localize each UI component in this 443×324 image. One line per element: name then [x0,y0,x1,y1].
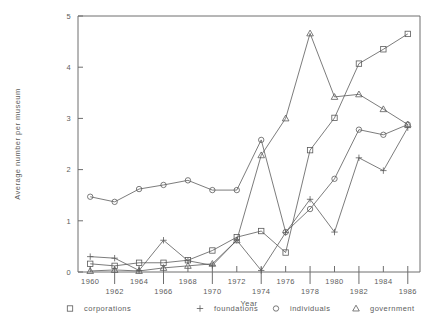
y-tick-label-1: 1 [66,217,71,226]
x-tick-label-1986: 1986 [399,287,417,296]
x-tick-label-1976: 1976 [276,277,294,286]
legend-label-government: government [370,304,415,313]
chart-labels: 0123451960196219641966196819701972197419… [13,12,417,308]
legend-marker-triangle [353,305,360,311]
x-tick-label-1968: 1968 [179,277,197,286]
legend-item-individuals: individuals [273,304,330,313]
datapoint-foundations-1978 [307,196,313,202]
legend-label-individuals: individuals [290,304,331,313]
y-tick-label-3: 3 [66,114,71,123]
x-tick-label-1962: 1962 [105,287,123,296]
chart-series [87,30,411,274]
datapoint-foundations-1984 [380,167,386,173]
y-tick-label-4: 4 [66,63,71,72]
legend-marker-plus [197,305,203,311]
x-tick-label-1984: 1984 [374,277,392,286]
chart-axes [78,16,420,284]
series-line-government [90,33,408,271]
x-tick-label-1980: 1980 [325,277,343,286]
legend-marker-square [67,306,72,311]
series-government [87,30,411,273]
series-corporations [88,31,411,268]
y-tick-label-0: 0 [66,268,71,277]
legend-item-corporations: corporations [67,304,131,313]
series-individuals [88,122,411,235]
x-tick-label-1972: 1972 [228,277,246,286]
chart-legend: corporationsfoundationsindividualsgovern… [67,304,415,313]
legend-item-foundations: foundations [197,304,258,313]
y-tick-label-2: 2 [66,165,71,174]
x-tick-label-1964: 1964 [130,277,148,286]
x-tick-label-1960: 1960 [81,277,99,286]
datapoint-foundations-1960 [87,253,93,259]
legend-item-government: government [353,304,415,313]
x-tick-label-1974: 1974 [252,287,270,296]
line-chart-svg: 0123451960196219641966196819701972197419… [0,0,443,324]
datapoint-foundations-1980 [331,229,337,235]
series-line-individuals [90,125,408,233]
x-tick-label-1982: 1982 [350,287,368,296]
datapoint-foundations-1982 [356,155,362,161]
y-tick-label-5: 5 [66,12,71,21]
datapoint-foundations-1962 [111,255,117,261]
series-line-corporations [90,34,408,266]
legend-label-foundations: foundations [214,304,258,313]
x-tick-label-1966: 1966 [154,287,172,296]
legend-label-corporations: corporations [84,304,131,313]
plot-frame [78,16,420,272]
x-tick-label-1978: 1978 [301,287,319,296]
legend-marker-circle [273,306,278,311]
x-tick-label-1970: 1970 [203,287,221,296]
y-axis-title: Average number per museum [13,88,22,200]
chart-container: 0123451960196219641966196819701972197419… [0,0,443,324]
